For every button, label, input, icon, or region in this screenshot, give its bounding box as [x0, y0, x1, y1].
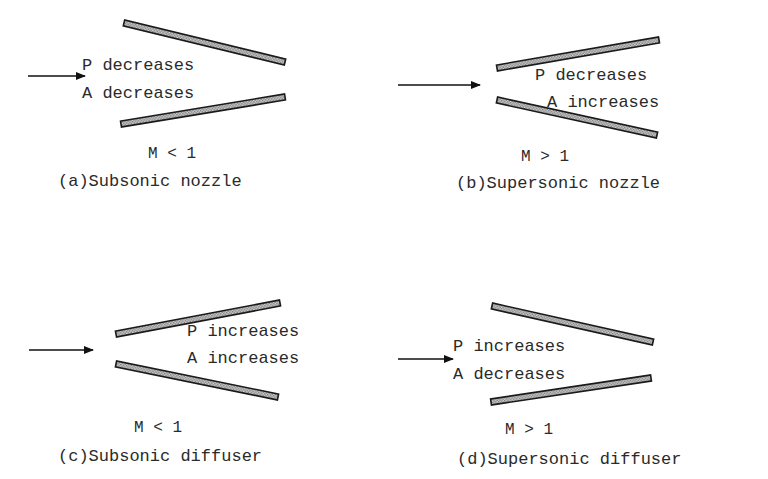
pressure-label: P increases [187, 322, 299, 341]
mach-label: M > 1 [521, 148, 569, 166]
nozzle-diffuser-diagram: P decreasesA decreasesM < 1(a)Subsonic n… [0, 0, 768, 479]
mach-label: M > 1 [505, 421, 553, 439]
panel-caption: (a)Subsonic nozzle [58, 172, 242, 191]
mach-label: M < 1 [134, 419, 182, 437]
mach-label: M < 1 [148, 145, 196, 163]
pressure-label: P decreases [82, 56, 194, 75]
area-label: A decreases [82, 84, 194, 103]
panel-d: P increasesA decreasesM > 1(d)Supersonic… [398, 303, 681, 469]
panel-caption: (d)Supersonic diffuser [457, 450, 681, 469]
area-label: A decreases [453, 365, 565, 384]
area-label: A increases [187, 349, 299, 368]
area-label: A increases [547, 93, 659, 112]
panel-a: P decreasesA decreasesM < 1(a)Subsonic n… [28, 20, 286, 191]
pressure-label: P increases [453, 337, 565, 356]
panel-b: P decreasesA increasesM > 1(b)Supersonic… [398, 37, 660, 193]
panels: P decreasesA decreasesM < 1(a)Subsonic n… [28, 20, 681, 469]
panel-caption: (c)Subsonic diffuser [58, 447, 262, 466]
panel-caption: (b)Supersonic nozzle [456, 174, 660, 193]
pressure-label: P decreases [535, 66, 647, 85]
panel-c: P increasesA increasesM < 1(c)Subsonic d… [29, 300, 299, 466]
